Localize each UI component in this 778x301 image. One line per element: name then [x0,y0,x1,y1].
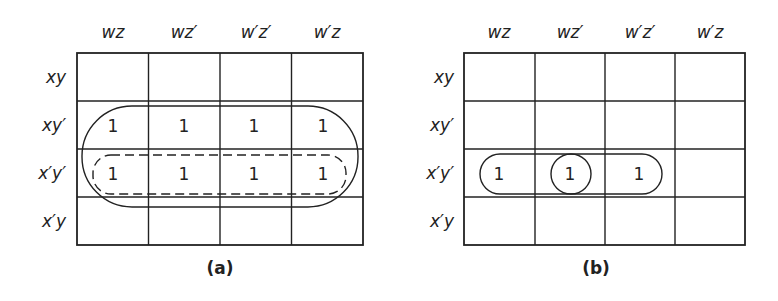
col-header-a-3: w′z [314,22,342,42]
row-header-b-0: xy [433,67,455,87]
cell-a-1-0: 1 [108,116,119,136]
cell-b-2-1: 1 [565,164,576,184]
cell-b-2-2: 1 [634,164,645,184]
row-header-a-3: x′y [41,211,67,231]
row-header-a-0: xy [45,67,67,87]
col-header-b-0: wz [488,22,512,42]
cell-a-2-1: 1 [179,164,190,184]
cell-a-2-3: 1 [318,164,329,184]
cell-a-2-2: 1 [249,164,260,184]
cell-a-1-2: 1 [249,116,260,136]
kmap-a: wz wz′ w′z′ w′z xy xy′ x′y′ x′y 1 1 1 1 … [37,22,363,278]
row-header-a-1: xy′ [41,115,66,135]
col-header-b-1: wz′ [557,22,584,42]
kmap-b-grid [464,53,745,245]
row-header-b-1: xy′ [429,115,454,135]
row-header-a-2: x′y′ [37,163,66,183]
col-header-a-0: wz [102,22,126,42]
col-header-a-1: wz′ [171,22,198,42]
col-header-a-2: w′z′ [241,22,272,42]
caption-b: (b) [582,258,610,278]
cell-a-1-1: 1 [179,116,190,136]
row-header-b-3: x′y [429,211,455,231]
col-header-b-3: w′z [697,22,725,42]
cell-a-1-3: 1 [318,116,329,136]
cell-a-2-0: 1 [108,164,119,184]
col-header-b-2: w′z′ [625,22,656,42]
karnaugh-maps-figure: wz wz′ w′z′ w′z xy xy′ x′y′ x′y 1 1 1 1 … [0,0,778,301]
caption-a: (a) [206,258,233,278]
cell-b-2-0: 1 [494,164,505,184]
kmap-a-grid [77,53,363,245]
kmap-b: wz wz′ w′z′ w′z xy xy′ x′y′ x′y 1 1 1 (b… [425,22,745,278]
row-header-b-2: x′y′ [425,163,454,183]
